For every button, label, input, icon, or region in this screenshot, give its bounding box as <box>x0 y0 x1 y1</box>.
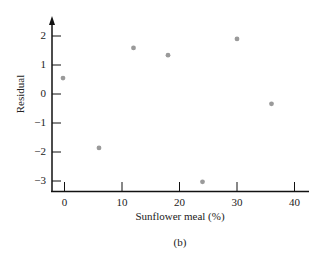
y-tick-label: −3 <box>34 174 46 186</box>
x-tick-label: 10 <box>117 196 128 208</box>
y-tick-label: 1 <box>41 58 47 70</box>
y-tick-label: 2 <box>41 29 47 41</box>
y-tick-label: −2 <box>34 145 46 157</box>
x-ticks <box>65 182 295 191</box>
y-tick-label: −1 <box>34 116 46 128</box>
x-tick-label: 0 <box>62 196 68 208</box>
data-point <box>235 37 240 42</box>
data-point <box>131 45 136 50</box>
data-point <box>200 179 205 184</box>
figure-caption: (b) <box>174 236 187 248</box>
y-axis-label: Residual <box>14 64 26 124</box>
x-tick-label: 20 <box>174 196 185 208</box>
x-tick-label: 40 <box>289 196 300 208</box>
y-axis-arrow-icon <box>49 16 55 25</box>
data-point <box>269 101 274 106</box>
x-axis-label: Sunflower meal (%) <box>135 210 224 222</box>
data-point <box>166 53 171 58</box>
data-point <box>97 146 102 151</box>
y-tick-label: 0 <box>41 87 47 99</box>
x-tick-label: 30 <box>232 196 243 208</box>
data-points <box>61 37 274 185</box>
y-ticks <box>52 36 61 181</box>
data-point <box>61 76 66 81</box>
